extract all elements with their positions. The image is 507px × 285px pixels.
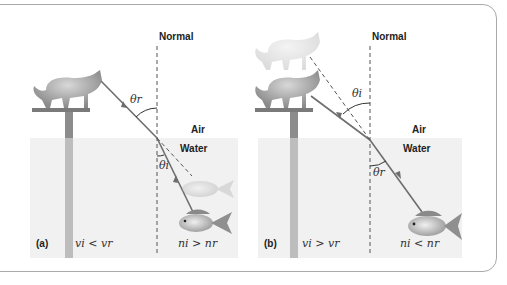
panel-tag: (a) — [36, 238, 48, 249]
panel-b — [255, 32, 462, 258]
normal-label: Normal — [159, 31, 193, 42]
normal-label: Normal — [372, 31, 406, 42]
angle-arc-top — [136, 108, 157, 117]
air-label: Air — [191, 124, 205, 135]
angle-top-label: θi — [352, 87, 362, 100]
water-label: Water — [403, 143, 430, 154]
angle-top-label: θr — [130, 93, 142, 106]
platform — [32, 108, 90, 112]
cat-icon — [255, 70, 320, 108]
panel-tag: (b) — [264, 238, 277, 249]
velocity-relation: vi > vr — [302, 237, 339, 250]
apparent-cat-icon — [255, 32, 320, 70]
index-relation: ni > nr — [178, 237, 217, 250]
index-relation: ni < nr — [400, 237, 439, 250]
air-label: Air — [412, 124, 426, 135]
incident-ray — [311, 96, 370, 140]
water-label: Water — [180, 143, 207, 154]
cat-icon — [33, 70, 102, 108]
velocity-relation: vi < vr — [75, 237, 112, 250]
angle-bottom-label: θr — [373, 166, 385, 179]
platform — [255, 108, 313, 112]
angle-bottom-label: θi — [159, 159, 169, 172]
